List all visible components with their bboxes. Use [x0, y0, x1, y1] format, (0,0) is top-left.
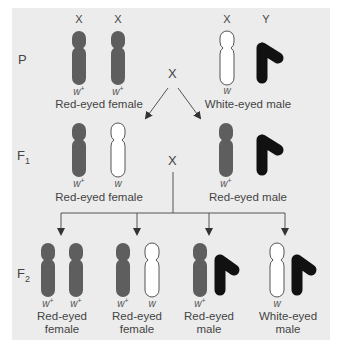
f2-3-allele: w+: [188, 297, 212, 309]
generation-label-p: P: [18, 52, 27, 67]
p-male-allele: w: [215, 85, 239, 96]
p-female-allele-1: w+: [67, 85, 91, 97]
f2-1-allele-1: w+: [36, 297, 60, 309]
generation-label-f2: F2: [17, 266, 30, 284]
generation-label-f1: F1: [17, 148, 30, 166]
f1-male-y-chromosome: [262, 140, 278, 170]
f2-1-allele-2: w+: [64, 297, 88, 309]
p-female-phenotype: Red-eyed female: [44, 98, 154, 111]
f2-4-phenotype: White-eyed male: [248, 310, 328, 336]
p-male-x-chromosome: [220, 31, 234, 85]
p-female-chr-label-1: X: [69, 13, 89, 25]
f1-male-phenotype: Red-eyed male: [198, 191, 298, 204]
f2-4-allele: w: [265, 297, 289, 309]
f2-1-x2-chromosome: [69, 243, 83, 297]
p-male-chr-label-x: X: [217, 13, 237, 25]
p-female-chr-label-2: X: [108, 13, 128, 25]
f2-2-allele-1: w+: [111, 297, 135, 309]
f2-2-allele-2: w: [140, 297, 164, 309]
f2-3-x-chromosome: [193, 243, 207, 297]
p-male-y-chromosome: [262, 48, 278, 78]
p-male-phenotype: White-eyed male: [193, 98, 303, 111]
f1-male-allele: w+: [214, 177, 238, 189]
f2-1-phenotype: Red-eyed female: [22, 310, 102, 336]
p-female-x2-chromosome: [111, 31, 125, 85]
f2-4-x-chromosome: [270, 243, 284, 297]
p-female-x1-chromosome: [72, 31, 86, 85]
f1-female-x2-chromosome: [111, 123, 125, 177]
f1-female-x1-chromosome: [72, 123, 86, 177]
p-cross-symbol: X: [168, 66, 177, 81]
f2-1-x1-chromosome: [41, 243, 55, 297]
f1-female-allele-2: w: [106, 177, 130, 189]
f2-4-y-chromosome: [297, 260, 311, 290]
p-female-allele-2: w+: [106, 85, 130, 97]
f1-cross-symbol: X: [168, 153, 177, 168]
f2-2-phenotype: Red-eyed female: [97, 310, 177, 336]
f2-2-x2-chromosome: [145, 243, 159, 297]
p-male-chr-label-y: Y: [256, 13, 276, 25]
f1-female-allele-1: w+: [67, 177, 91, 189]
f2-3-y-chromosome: [220, 260, 234, 290]
f2-3-phenotype: Red-eyed male: [174, 310, 244, 336]
f1-male-x-chromosome: [219, 123, 233, 177]
f2-2-x1-chromosome: [116, 243, 130, 297]
f1-female-phenotype: Red-eyed female: [44, 191, 154, 204]
